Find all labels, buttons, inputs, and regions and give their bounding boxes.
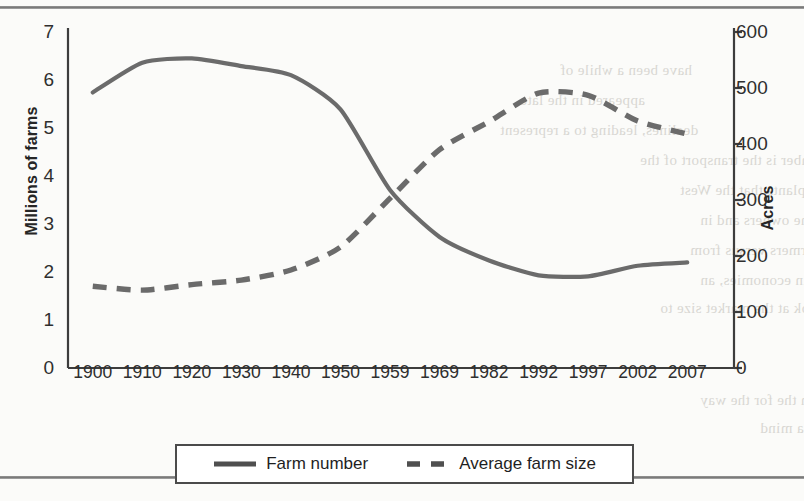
y-right-tick-200: 200 [736, 246, 788, 265]
axis-lines [68, 28, 742, 368]
legend-item-farm-number: Farm number [213, 454, 368, 474]
x-tick-1982: 1982 [470, 362, 509, 383]
x-tick-2002: 2002 [618, 362, 657, 383]
x-tick-1940: 1940 [271, 362, 310, 383]
legend-item-average-farm-size: Average farm size [406, 454, 596, 474]
page-rule-top [0, 6, 804, 9]
scanned-page-background: have been a while ofappeared in the late… [0, 0, 804, 501]
x-tick-1910: 1910 [123, 362, 162, 383]
farm-number-and-size-chart: Millions of farms Acres 76543210 6005004… [0, 14, 804, 444]
y-left-tick-5: 5 [14, 118, 54, 137]
series-layer [93, 58, 687, 290]
x-tick-1992: 1992 [519, 362, 558, 383]
series-line-farm-number [93, 58, 687, 277]
dashed-line-icon [406, 458, 450, 470]
x-tick-2007: 2007 [668, 362, 707, 383]
y-left-tick-4: 4 [14, 166, 54, 185]
chart-legend: Farm numberAverage farm size [175, 444, 634, 484]
x-tick-1930: 1930 [222, 362, 261, 383]
y-left-tick-2: 2 [14, 262, 54, 281]
legend-label: Farm number [266, 454, 368, 474]
x-tick-1997: 1997 [569, 362, 608, 383]
x-tick-1969: 1969 [420, 362, 459, 383]
y-left-tick-7: 7 [14, 22, 54, 41]
solid-line-icon [213, 458, 257, 470]
x-tick-1950: 1950 [321, 362, 360, 383]
x-tick-1959: 1959 [371, 362, 410, 383]
y-left-tick-3: 3 [14, 214, 54, 233]
y-right-tick-400: 400 [736, 134, 788, 153]
legend-label: Average farm size [459, 454, 596, 474]
x-axis-tick-labels: 1900191019201930194019501959196919821992… [0, 362, 804, 392]
y-right-tick-100: 100 [736, 302, 788, 321]
x-tick-1900: 1900 [73, 362, 112, 383]
y-right-tick-300: 300 [736, 190, 788, 209]
y-right-tick-600: 600 [736, 22, 788, 41]
y-right-tick-500: 500 [736, 78, 788, 97]
y-left-tick-6: 6 [14, 70, 54, 89]
y-left-tick-1: 1 [14, 310, 54, 329]
x-tick-1920: 1920 [172, 362, 211, 383]
